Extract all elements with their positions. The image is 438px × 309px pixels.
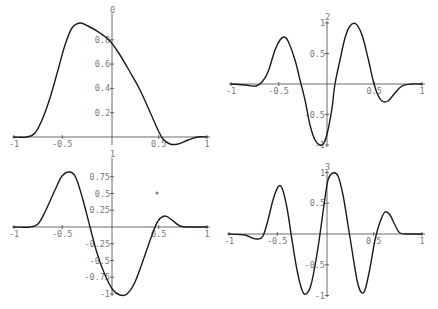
y-tick-label: -0.25 [84, 239, 110, 249]
panel-top-left: 0-1-0.50.510.20.40.60.8 [9, 5, 210, 150]
wavelet-figure: 0-1-0.50.510.20.40.60.8 2-1-0.50.5110.5-… [0, 0, 438, 309]
x-tick-label: 1 [419, 236, 424, 246]
panel-bottom-left: 1-1-0.50.510.750.50.25-0.25-0.5-0.75-1 [9, 149, 210, 299]
x-tick-label: 1 [204, 139, 209, 149]
curve-phi_0 [14, 23, 207, 145]
y-tick-label: 0.4 [95, 83, 110, 93]
panel-top-right: 2-1-0.50.5110.5-0.5-1 [226, 12, 425, 150]
panel-title: 1 [110, 149, 115, 159]
y-tick-label: 1 [320, 18, 325, 28]
y-tick-label: 0.5 [95, 189, 110, 199]
y-tick-label: 0.2 [95, 108, 110, 118]
x-tick-label: -1 [224, 236, 234, 246]
x-tick-label: -1 [9, 229, 19, 239]
panel-title: 2 [325, 12, 330, 22]
x-tick-label: -1 [226, 86, 236, 96]
y-tick-label: 0.5 [310, 49, 325, 59]
stray-marker [155, 191, 158, 194]
annotations [155, 191, 158, 194]
y-tick-label: -1 [315, 291, 325, 301]
y-tick-label: 0.6 [95, 59, 110, 69]
panel-title: 3 [325, 162, 330, 172]
x-tick-label: 0.5 [367, 86, 382, 96]
x-tick-label: 1 [204, 229, 209, 239]
panel-title: 0 [110, 5, 115, 15]
y-tick-label: 0.8 [95, 35, 110, 45]
y-tick-label: 0.75 [90, 172, 110, 182]
x-tick-label: -0.5 [52, 139, 72, 149]
x-tick-label: 1 [419, 86, 424, 96]
curve-psi_3 [229, 173, 422, 295]
panel-bottom-right: 3-1-0.50.5110.5-0.5-1 [224, 162, 425, 301]
x-tick-label: -0.5 [267, 236, 287, 246]
x-tick-label: -0.5 [52, 229, 72, 239]
y-tick-label: 0.25 [90, 205, 110, 215]
x-tick-label: -0.5 [269, 86, 289, 96]
y-tick-label: -1 [100, 289, 110, 299]
y-tick-label: 1 [320, 168, 325, 178]
y-tick-label: 0.5 [310, 198, 325, 208]
x-tick-label: -1 [9, 139, 19, 149]
